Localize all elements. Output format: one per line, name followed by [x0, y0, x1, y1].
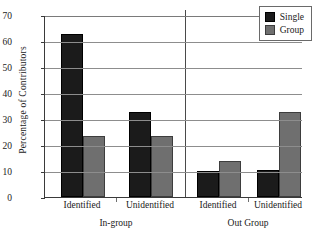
y-tick-label: 60: [0, 37, 12, 47]
y-tick-mark: [41, 16, 45, 17]
y-tick-mark: [41, 68, 45, 69]
gridline: [45, 172, 302, 173]
x-tick-label-2: Identified: [200, 200, 237, 210]
y-axis-title: Percentage of Contributors: [18, 15, 28, 185]
x-group-label-1: Out Group: [228, 218, 269, 228]
y-tick-mark: [41, 146, 45, 147]
y-tick-label: 40: [0, 89, 12, 99]
bars-layer: [45, 16, 302, 197]
gridline: [45, 94, 302, 95]
legend-item-group: Group: [265, 23, 304, 36]
y-tick-label: 10: [0, 167, 12, 177]
y-tick-mark: [41, 172, 45, 173]
bar-chart: Percentage of Contributors 0102030405060…: [0, 0, 318, 246]
legend-item-single: Single: [265, 10, 304, 23]
gridline: [45, 146, 302, 147]
legend: Single Group: [259, 6, 312, 41]
x-tick-label-1: Unidentified: [126, 200, 174, 210]
gridline: [45, 120, 302, 121]
legend-label-group: Group: [280, 25, 304, 35]
y-tick-mark: [41, 120, 45, 121]
plot-area: [44, 16, 302, 198]
bar-single-3: [257, 170, 279, 197]
x-separator-tick-1: [248, 198, 249, 202]
gridline: [45, 68, 302, 69]
y-tick-label: 0: [0, 193, 12, 203]
x-separator-tick-0: [116, 198, 117, 202]
y-tick-label: 30: [0, 115, 12, 125]
legend-label-single: Single: [280, 12, 304, 22]
legend-swatch-group-icon: [265, 25, 275, 35]
bar-group-3: [279, 112, 301, 197]
legend-swatch-single-icon: [265, 12, 275, 22]
group-divider: [185, 10, 186, 197]
x-group-label-0: In-group: [99, 218, 132, 228]
x-tick-label-0: Identified: [64, 200, 101, 210]
y-tick-mark: [41, 94, 45, 95]
gridline: [45, 42, 302, 43]
y-tick-label: 50: [0, 63, 12, 73]
bar-single-1: [129, 112, 151, 197]
bar-single-2: [197, 171, 219, 197]
bar-group-2: [219, 161, 241, 197]
y-tick-mark: [41, 42, 45, 43]
y-tick-label: 20: [0, 141, 12, 151]
y-tick-mark: [41, 198, 45, 199]
y-tick-label: 70: [0, 11, 12, 21]
bar-group-1: [151, 136, 173, 197]
x-tick-label-3: Unidentified: [254, 200, 302, 210]
